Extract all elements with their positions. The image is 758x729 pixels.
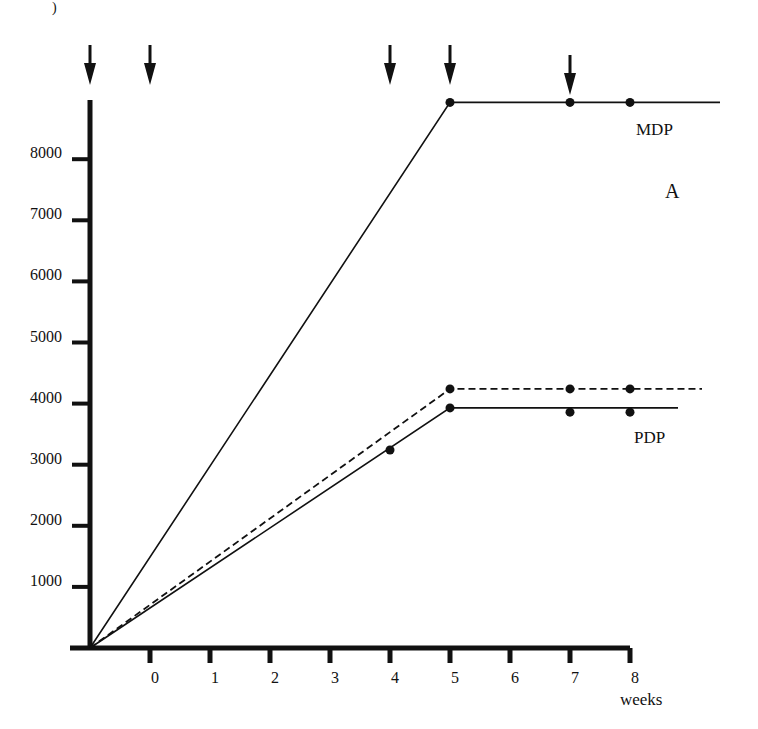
data-series [90, 98, 720, 648]
x-tick-label: 8 [631, 669, 639, 686]
data-point [626, 384, 635, 393]
y-tick-label: 7000 [30, 205, 62, 222]
x-axis-label: weeks [620, 690, 662, 709]
data-point [566, 384, 575, 393]
y-tick-label: 4000 [30, 389, 62, 406]
data-point [446, 403, 455, 412]
y-axis-ticks: 10002000300040005000600070008000 [30, 144, 90, 648]
y-tick-label: 5000 [30, 328, 62, 345]
y-tick-label: 8000 [30, 144, 62, 161]
mdp-label: MDP [636, 120, 673, 139]
x-tick-label: 5 [451, 669, 459, 686]
x-tick-label: 2 [271, 669, 279, 686]
x-tick-label: 3 [331, 669, 339, 686]
data-point [626, 98, 635, 107]
x-tick-label: 6 [511, 669, 519, 686]
data-point [566, 98, 575, 107]
chart-canvas: ) 10002000300040005000600070008000 01234… [0, 0, 758, 729]
y-tick-label: 2000 [30, 511, 62, 528]
x-tick-label: 4 [391, 669, 399, 686]
panel-label: A [665, 180, 680, 202]
data-point [446, 98, 455, 107]
y-tick-label: 1000 [30, 572, 62, 589]
y-tick-label: 6000 [30, 266, 62, 283]
series-line [90, 102, 720, 648]
data-point [626, 408, 635, 417]
y-tick-label: 3000 [30, 450, 62, 467]
pdp-label: PDP [634, 428, 665, 447]
x-tick-label: 7 [571, 669, 579, 686]
data-point [386, 446, 395, 455]
arrow-head-icon [444, 63, 456, 85]
x-tick-label: 1 [211, 669, 219, 686]
data-point [566, 408, 575, 417]
arrow-head-icon [144, 63, 156, 85]
arrow-markers [84, 45, 576, 95]
x-tick-label: 0 [151, 669, 159, 686]
x-axis-ticks: 012345678 [150, 648, 639, 686]
arrow-head-icon [84, 63, 96, 85]
corner-mark: ) [52, 0, 57, 16]
arrow-head-icon [384, 63, 396, 85]
data-point [446, 384, 455, 393]
series-line [90, 389, 702, 648]
arrow-head-icon [564, 73, 576, 95]
series-line [90, 408, 678, 648]
